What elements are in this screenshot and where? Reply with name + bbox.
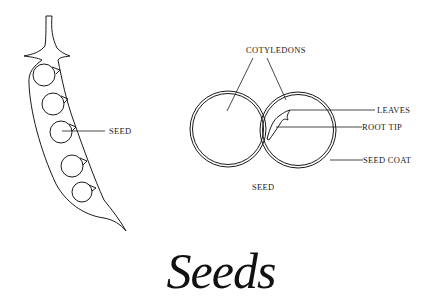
seed-cross-section: COTYLEDONS LEAVES ROOT TIP SEED COAT SEE…	[190, 45, 412, 192]
pod-sepal-right	[57, 48, 70, 60]
root-tip-label: ROOT TIP	[362, 122, 402, 132]
cotyledons-leader-right	[267, 58, 286, 100]
leaves-label: LEAVES	[377, 105, 410, 115]
pod-seed-4	[61, 155, 83, 177]
pod-seeds	[33, 64, 96, 202]
cotyledons-leader-left	[227, 58, 253, 111]
seeds-diagram: SEED COTYLEDONS LEAVES ROOT TIP SEED COA…	[0, 0, 442, 307]
left-cotyledon-inner	[193, 94, 264, 165]
cotyledons-label: COTYLEDONS	[246, 45, 306, 55]
page-title: Seeds	[167, 243, 276, 299]
pod-seed-label: SEED	[109, 126, 131, 136]
seed-caption: SEED	[252, 182, 274, 192]
pod-seed-2	[42, 93, 64, 115]
embryo-root-tip	[267, 110, 290, 140]
pod-seed-1	[33, 64, 55, 86]
pea-pod: SEED	[24, 16, 131, 231]
seed-coat-label: SEED COAT	[363, 155, 412, 165]
pod-sepal-left	[24, 46, 45, 60]
pod-seed-1-hilum	[52, 67, 60, 74]
right-cotyledon-outer	[260, 92, 336, 168]
pod-stem	[45, 16, 57, 48]
pod-seed-5-hilum	[89, 185, 96, 191]
pod-seed-3	[50, 121, 72, 143]
left-cotyledon-outer	[190, 91, 266, 167]
right-cotyledon-inner	[263, 95, 334, 166]
